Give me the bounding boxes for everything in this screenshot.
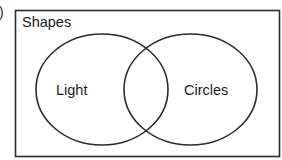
venn-diagram-canvas: ) Shapes Light Circles: [0, 0, 282, 160]
panel-label: ): [0, 4, 4, 20]
venn-diagram-figure: ) Shapes Light Circles: [0, 0, 282, 160]
universe-label: Shapes: [22, 14, 71, 30]
set-label-light: Light: [56, 82, 87, 98]
set-label-circles: Circles: [184, 82, 228, 98]
